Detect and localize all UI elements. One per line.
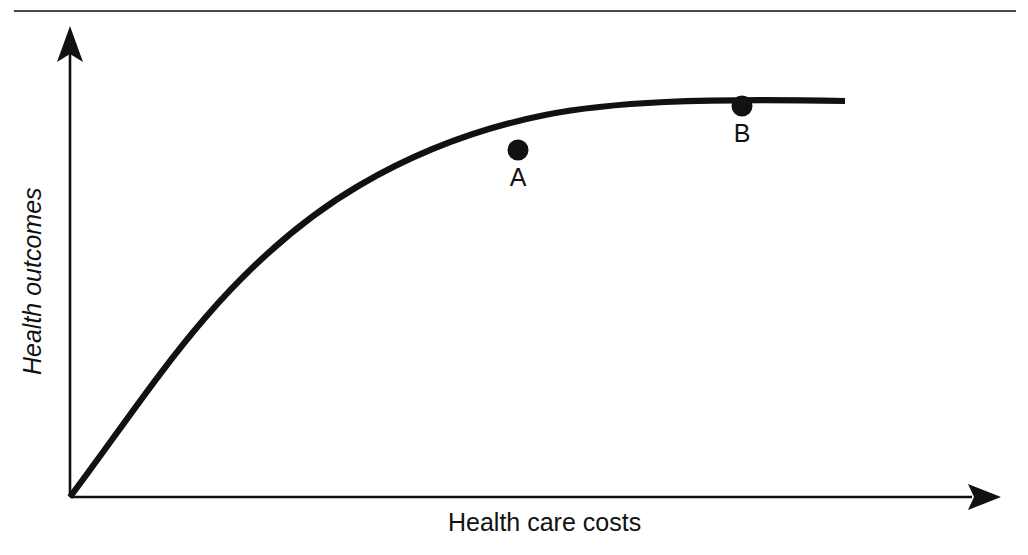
health-production-curve xyxy=(70,100,845,497)
data-point-a-label: A xyxy=(505,163,531,192)
chart-canvas xyxy=(0,0,1028,555)
data-point-b-label: B xyxy=(729,119,755,148)
x-axis-label: Health care costs xyxy=(448,508,641,537)
x-axis-arrowhead-icon xyxy=(968,484,1001,510)
chart-figure: Health outcomes Health care costs A B xyxy=(0,0,1028,555)
data-point-a-marker xyxy=(508,140,529,161)
data-point-b-marker xyxy=(732,96,753,117)
y-axis-label: Health outcomes xyxy=(18,187,47,375)
